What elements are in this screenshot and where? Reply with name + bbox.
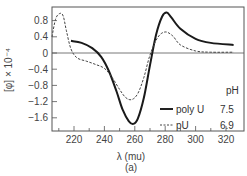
y-tick-label: −0.4: [28, 64, 48, 75]
plot-frame: [52, 7, 244, 131]
x-tick-label: 240: [96, 134, 113, 145]
legend-label-pu: pU: [176, 120, 189, 131]
x-tick-label: 320: [218, 134, 235, 145]
legend-value-pu: 6.9: [220, 120, 234, 131]
x-tick-label: 300: [187, 134, 204, 145]
x-tick-label: 280: [157, 134, 174, 145]
x-tick-label: 260: [126, 134, 143, 145]
legend: pH poly U 7.5 pU 6.9: [160, 85, 239, 131]
y-tick-label: −0.8: [28, 80, 48, 91]
legend-label-poly-u: poly U: [176, 104, 204, 115]
y-tick-label: 0.4: [34, 31, 48, 42]
cd-spectrum-chart: 220240260280300320 0.80.40−0.4−0.8−1.2−1…: [0, 0, 247, 176]
y-tick-label: −1.2: [28, 96, 48, 107]
panel-label: (a): [125, 162, 137, 173]
y-tick-label: 0: [42, 48, 48, 59]
y-tick-label: −1.6: [28, 112, 48, 123]
series-pu: [52, 13, 234, 100]
legend-value-poly-u: 7.5: [220, 104, 234, 115]
x-axis-label: λ (mu): [117, 151, 145, 162]
series-poly-u: [71, 12, 234, 123]
x-tick-label: 220: [66, 134, 83, 145]
legend-header: pH: [226, 85, 239, 96]
y-axis-label: [φ] × 10⁻⁴: [3, 48, 14, 92]
y-tick-label: 0.8: [34, 15, 48, 26]
data-series: [52, 12, 234, 123]
x-axis-ticks: 220240260280300320: [59, 126, 235, 145]
